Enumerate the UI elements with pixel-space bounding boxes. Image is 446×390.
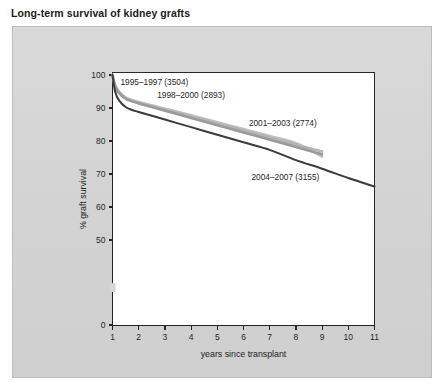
series-label-2001-2003: 2001–2003 (2774) — [249, 118, 317, 128]
y-axis-tick-label: 60 — [96, 202, 106, 212]
figure-root: Long-term survival of kidney grafts 0506… — [0, 0, 446, 390]
x-axis-tick-label: 3 — [163, 332, 168, 342]
x-axis-tick-label: 7 — [267, 332, 272, 342]
x-axis-title: years since transplant — [201, 349, 287, 359]
plot-area-background — [113, 73, 375, 326]
x-axis-tick-label: 2 — [136, 332, 141, 342]
y-axis-tick-label: 0 — [101, 320, 106, 330]
x-axis-tick-label: 8 — [294, 332, 299, 342]
y-axis-tick-label: 50 — [96, 235, 106, 245]
x-axis-tick-label: 9 — [320, 332, 325, 342]
y-axis-tick-label: 100 — [91, 70, 105, 80]
y-axis-title: % graft survival — [78, 169, 88, 229]
x-axis-tick-label: 11 — [370, 332, 379, 342]
series-label-1995-1997: 1995–1997 (3504) — [121, 77, 189, 87]
x-axis-tick-label: 6 — [241, 332, 246, 342]
y-axis-tick-label: 70 — [96, 169, 106, 179]
y-axis-tick-label: 90 — [96, 103, 106, 113]
x-axis-tick-label: 4 — [189, 332, 194, 342]
x-axis-tick-label: 1 — [110, 332, 115, 342]
x-axis-tick-label: 5 — [215, 332, 220, 342]
y-axis-tick-label: 80 — [96, 136, 106, 146]
series-label-2004-2007: 2004–2007 (3155) — [252, 172, 320, 182]
series-label-1998-2000: 1998–2000 (2893) — [157, 90, 225, 100]
x-axis-tick-label: 10 — [344, 332, 354, 342]
line-chart: 050607080901001234567891011years since t… — [0, 0, 446, 390]
y-axis-break-marker — [110, 283, 116, 292]
